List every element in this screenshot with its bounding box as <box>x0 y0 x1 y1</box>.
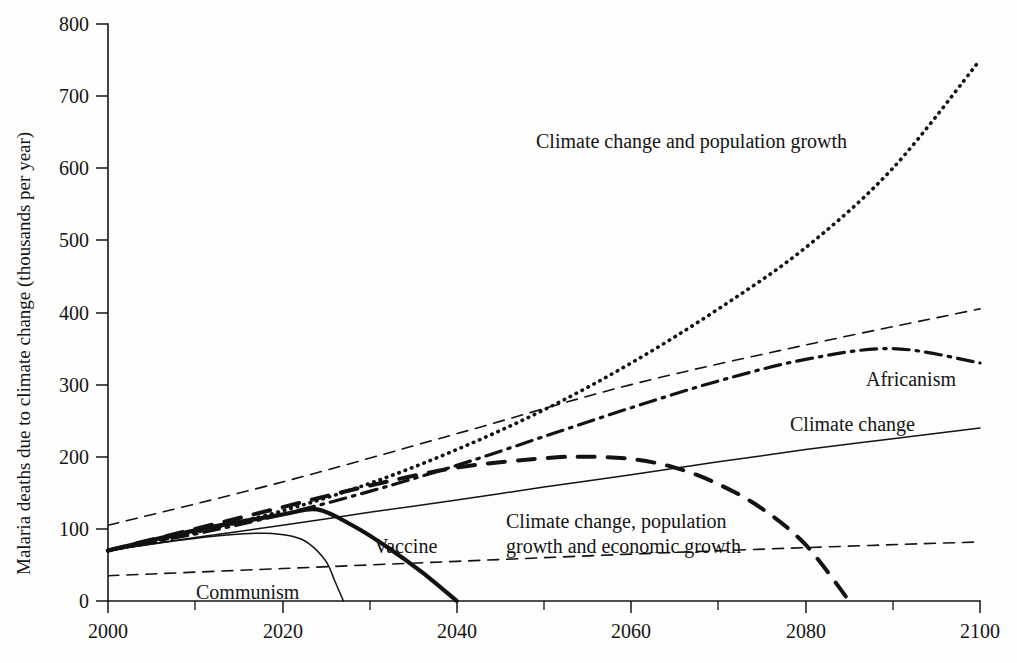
x-tick-label-2080: 2080 <box>786 620 826 642</box>
series-label-africanism: Africanism <box>866 368 956 390</box>
y-tick-label-500: 500 <box>59 229 89 251</box>
y-tick-label-400: 400 <box>59 302 89 324</box>
y-tick-label-600: 600 <box>59 157 89 179</box>
chart-figure: 800 700 600 500 400 300 200 100 0 2000 2… <box>0 0 1017 663</box>
x-tick-label-2000: 2000 <box>88 620 128 642</box>
chart-svg: 800 700 600 500 400 300 200 100 0 2000 2… <box>0 0 1017 663</box>
series-label-vaccine: Vaccine <box>374 535 437 557</box>
series-label-climate-change: Climate change <box>790 413 915 436</box>
y-tick-label-800: 800 <box>59 13 89 35</box>
x-tick-label-2040: 2040 <box>437 620 477 642</box>
series-label-cpe-line2: growth and economic growth <box>506 535 741 558</box>
x-axis-minor-ticks <box>195 601 893 610</box>
y-tick-label-700: 700 <box>59 85 89 107</box>
y-axis-title: Malaria deaths due to climate change (th… <box>13 132 35 575</box>
x-tick-label-2060: 2060 <box>611 620 651 642</box>
series-label-communism: Communism <box>196 581 300 603</box>
y-axis-ticks <box>96 24 108 601</box>
series-path-climate-change <box>108 428 980 551</box>
y-tick-label-100: 100 <box>59 518 89 540</box>
series-label-climate-change-and-population-growth: Climate change and population growth <box>536 130 847 153</box>
y-tick-label-0: 0 <box>79 590 89 612</box>
y-tick-label-200: 200 <box>59 446 89 468</box>
series-label-cpe-line1: Climate change, population <box>506 510 727 533</box>
x-tick-label-2100: 2100 <box>960 620 1000 642</box>
y-tick-label-300: 300 <box>59 374 89 396</box>
x-tick-label-2020: 2020 <box>263 620 303 642</box>
